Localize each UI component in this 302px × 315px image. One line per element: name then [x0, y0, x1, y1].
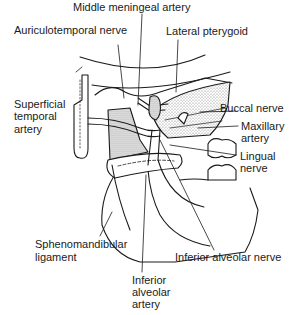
articular-disc: [149, 96, 161, 120]
label-inferior-alveolar-nerve: Inferior alveolar nerve: [175, 251, 281, 263]
mandible-ramus: [148, 170, 210, 246]
label-inferior-alveolar-artery-1: Inferior: [132, 274, 166, 286]
label-auriculotemporal-nerve: Auriculotemporal nerve: [14, 24, 127, 36]
label-superficial-temporal-artery-2: temporal: [14, 110, 57, 122]
label-buccal-nerve: Buccal nerve: [220, 102, 284, 114]
label-superficial-temporal-artery-1: Superficial: [14, 98, 65, 110]
label-maxillary-artery-1: Maxillary: [241, 120, 284, 132]
molar-upper: [208, 139, 236, 158]
label-lateral-pterygoid: Lateral pterygoid: [166, 25, 248, 37]
skull-base-arc-upper: [80, 55, 205, 68]
label-middle-meningeal-artery: Middle meningeal artery: [73, 1, 190, 13]
ramus-stippled: [108, 108, 148, 160]
molar-lower: [208, 165, 236, 180]
superficial-temporal-artery: [74, 75, 88, 158]
label-sphenomandibular-ligament-2: ligament: [35, 251, 77, 263]
label-superficial-temporal-artery-3: artery: [14, 123, 42, 135]
label-lingual-nerve-2: nerve: [240, 162, 268, 174]
label-maxillary-artery-2: artery: [241, 132, 269, 144]
label-sphenomandibular-ligament-1: Sphenomandibular: [35, 238, 127, 250]
label-lingual-nerve-1: Lingual: [240, 150, 275, 162]
label-inferior-alveolar-artery-3: artery: [132, 298, 160, 310]
label-inferior-alveolar-artery-2: alveolar: [132, 286, 171, 298]
